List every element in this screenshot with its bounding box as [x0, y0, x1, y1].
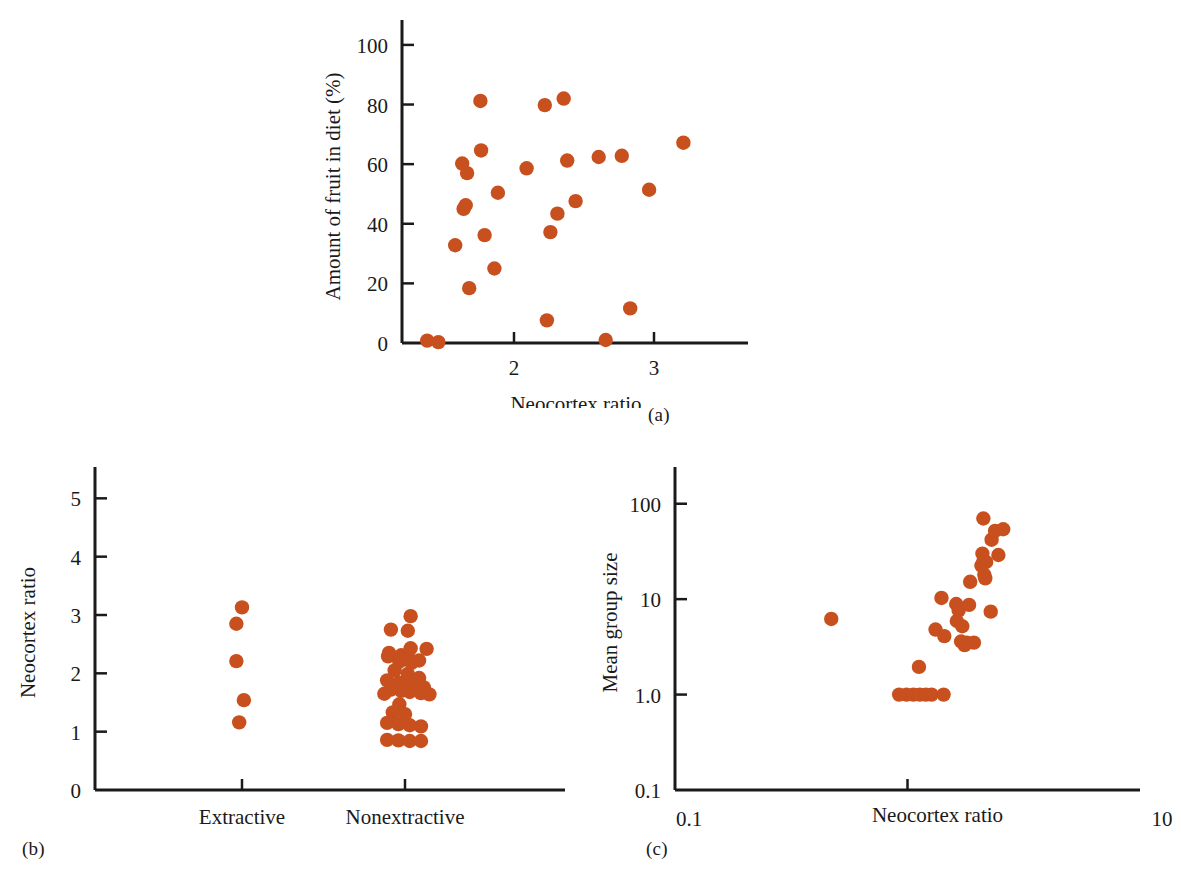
- data-point: [568, 194, 582, 208]
- data-point: [642, 183, 656, 197]
- y-tick-label: 0.1: [635, 779, 661, 803]
- panel-c-loglog-scatter: 0.11.0101000.110Neocortex ratioMean grou…: [600, 455, 1175, 855]
- data-point: [962, 598, 976, 612]
- data-point: [401, 624, 415, 638]
- x-tick-label-left: 0.1: [676, 807, 702, 831]
- data-point: [560, 153, 574, 167]
- data-point: [414, 719, 428, 733]
- data-point: [615, 149, 629, 163]
- data-point: [487, 261, 501, 275]
- data-point: [955, 619, 969, 633]
- data-point: [448, 238, 462, 252]
- data-point: [599, 333, 613, 347]
- y-tick-label: 4: [71, 546, 82, 570]
- data-point: [229, 654, 243, 668]
- y-tick-label: 100: [630, 493, 662, 517]
- panel-b-stripplot: 012345ExtractiveNonextractiveNeocortex r…: [20, 455, 600, 855]
- data-point: [384, 622, 398, 636]
- data-point: [936, 687, 950, 701]
- data-point: [976, 511, 990, 525]
- x-axis-title: Neocortex ratio: [510, 392, 641, 408]
- data-point: [474, 143, 488, 157]
- y-axis-title: Mean group size: [600, 553, 622, 693]
- data-point: [991, 548, 1005, 562]
- y-tick-label: 0: [378, 332, 389, 356]
- data-point: [538, 98, 552, 112]
- data-point: [459, 198, 473, 212]
- y-tick-label: 100: [357, 34, 389, 58]
- data-point: [996, 522, 1010, 536]
- data-point: [550, 206, 564, 220]
- data-point: [462, 281, 476, 295]
- data-point: [422, 687, 436, 701]
- data-point: [519, 161, 533, 175]
- data-point: [460, 166, 474, 180]
- data-point: [623, 301, 637, 315]
- data-point: [235, 600, 249, 614]
- data-point: [377, 687, 391, 701]
- x-tick-label: 2: [509, 356, 520, 380]
- data-point: [592, 150, 606, 164]
- y-tick-label: 1.0: [635, 684, 661, 708]
- data-point: [431, 335, 445, 349]
- panel-a-plot: 02040608010023Neocortex ratioAmount of f…: [180, 8, 760, 408]
- data-point: [984, 604, 998, 618]
- data-point: [477, 228, 491, 242]
- y-tick-label: 5: [71, 487, 82, 511]
- y-tick-label: 0: [71, 779, 82, 803]
- y-tick-label: 2: [71, 662, 82, 686]
- y-tick-label: 20: [367, 272, 388, 296]
- data-point: [414, 734, 428, 748]
- y-tick-label: 10: [640, 588, 661, 612]
- y-tick-label: 1: [71, 721, 82, 745]
- data-point: [232, 715, 246, 729]
- y-tick-label: 40: [367, 213, 388, 237]
- x-tick-label: 3: [649, 356, 660, 380]
- category-label-extractive: Extractive: [199, 805, 285, 829]
- data-point: [978, 571, 992, 585]
- panel-c-plot: 0.11.0101000.110Neocortex ratioMean grou…: [600, 455, 1175, 855]
- data-point: [491, 186, 505, 200]
- data-point: [824, 612, 838, 626]
- x-tick-label-right: 10: [1152, 807, 1173, 831]
- x-axis-title: Neocortex ratio: [872, 803, 1003, 827]
- figure-root: 02040608010023Neocortex ratioAmount of f…: [0, 0, 1181, 896]
- data-point: [229, 617, 243, 631]
- data-point: [937, 629, 951, 643]
- data-point: [543, 225, 557, 239]
- panel-b-caption: (b): [22, 838, 45, 860]
- y-tick-label: 3: [71, 604, 82, 628]
- data-point: [540, 313, 554, 327]
- panel-a-caption: (a): [648, 404, 670, 426]
- panel-b-plot: 012345ExtractiveNonextractiveNeocortex r…: [20, 455, 600, 855]
- category-label-nonextractive: Nonextractive: [346, 805, 465, 829]
- y-tick-label: 60: [367, 153, 388, 177]
- data-point: [979, 555, 993, 569]
- data-point: [912, 660, 926, 674]
- data-point: [473, 94, 487, 108]
- panel-a-scatter: 02040608010023Neocortex ratioAmount of f…: [180, 8, 760, 408]
- data-point: [934, 591, 948, 605]
- data-point: [557, 91, 571, 105]
- y-axis-title: Neocortex ratio: [20, 567, 40, 698]
- data-point: [963, 575, 977, 589]
- panel-c-caption: (c): [646, 838, 668, 860]
- data-point: [403, 609, 417, 623]
- y-tick-label: 80: [367, 94, 388, 118]
- data-point: [237, 693, 251, 707]
- data-point: [967, 635, 981, 649]
- data-point: [676, 135, 690, 149]
- y-axis-title: Amount of fruit in diet (%): [321, 72, 345, 300]
